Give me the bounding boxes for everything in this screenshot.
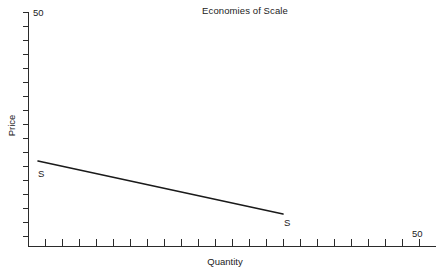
chart-figure: Economies of Scale Quantity Price 50 50 …: [0, 0, 444, 277]
x-axis-max-tick-label: 50: [412, 228, 423, 239]
chart-title: Economies of Scale: [155, 5, 335, 16]
x-axis-ticks: [46, 239, 420, 247]
y-axis-ticks: [23, 13, 29, 237]
supply-curve-line: [38, 161, 283, 214]
chart-canvas: [0, 0, 444, 277]
y-axis-title: Price: [6, 101, 17, 151]
supply-curve-end-label: S: [284, 217, 290, 228]
y-axis-max-tick-label: 50: [33, 7, 44, 18]
x-axis-title: Quantity: [150, 256, 300, 267]
supply-curve-start-label: S: [38, 168, 44, 179]
